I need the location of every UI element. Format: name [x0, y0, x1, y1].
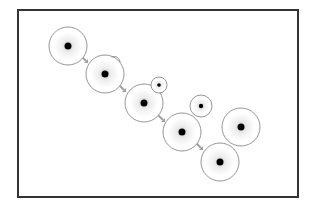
- node-center-dot: [65, 43, 72, 50]
- node-center-dot: [238, 124, 245, 131]
- node-center-dot: [102, 71, 109, 78]
- diagram-canvas: [0, 0, 314, 204]
- node-n3s: [151, 77, 167, 93]
- node-n2: [86, 55, 124, 93]
- node-n6: [201, 143, 239, 181]
- node-n1: [49, 27, 87, 65]
- node-center-dot: [141, 100, 148, 107]
- node-center-dot: [199, 104, 203, 108]
- node-n5s: [190, 95, 212, 117]
- node-n4: [163, 113, 201, 151]
- node-center-dot: [179, 129, 186, 136]
- node-n5: [222, 108, 260, 146]
- node-center-dot: [157, 83, 161, 87]
- node-center-dot: [217, 159, 224, 166]
